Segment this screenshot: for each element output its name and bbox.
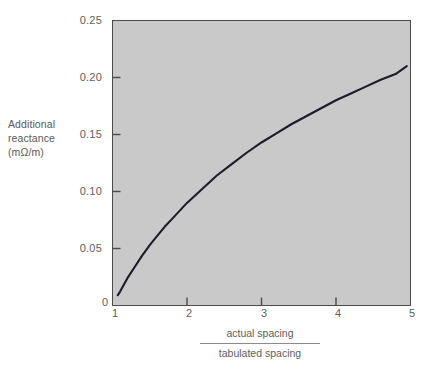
chart-figure: Additional reactance (mΩ/m) 0.25 0.20 0.…	[0, 0, 425, 374]
plot-background	[113, 21, 411, 306]
plot-area	[0, 0, 425, 374]
